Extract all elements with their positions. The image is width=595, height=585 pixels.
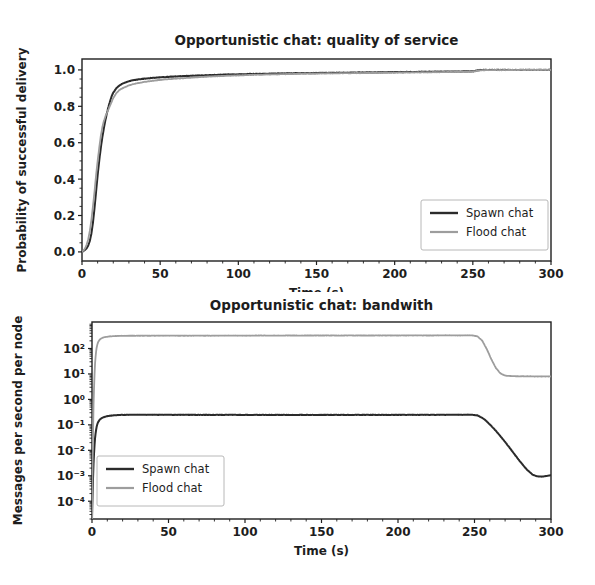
chart-svg-bandwith: Opportunistic chat: bandwith050100150200… <box>0 292 595 585</box>
legend[interactable]: Spawn chatFlood chat <box>97 456 224 506</box>
x-axis-label: Time (s) <box>294 544 349 558</box>
y-tick-label: 10⁻¹ <box>57 418 85 432</box>
y-tick-label: 10⁻⁴ <box>57 495 85 509</box>
x-tick-label: 50 <box>160 525 177 539</box>
x-tick-label: 300 <box>538 525 563 539</box>
y-tick-label: 0.4 <box>54 173 75 187</box>
chart-title: Opportunistic chat: quality of service <box>174 32 458 48</box>
legend-label-flood-chat: Flood chat <box>466 225 526 239</box>
chart-svg-quality-of-service: Opportunistic chat: quality of service05… <box>0 0 595 292</box>
chart-panel-quality-of-service: Opportunistic chat: quality of service05… <box>0 0 595 292</box>
figure-container: Opportunistic chat: quality of service05… <box>0 0 595 585</box>
y-axis-label: Messages per second per node <box>11 316 25 526</box>
x-tick-label: 100 <box>226 267 251 281</box>
y-tick-label: 10⁻² <box>57 444 85 458</box>
y-axis-label: Probability of successful delivery <box>15 47 29 272</box>
x-tick-label: 200 <box>385 525 410 539</box>
legend-label-spawn-chat: Spawn chat <box>142 462 210 476</box>
legend-label-flood-chat: Flood chat <box>142 481 202 495</box>
x-tick-label: 100 <box>232 525 257 539</box>
x-tick-label: 200 <box>382 267 407 281</box>
x-tick-label: 150 <box>309 525 334 539</box>
y-tick-label: 10² <box>63 342 85 356</box>
x-tick-label: 250 <box>462 525 487 539</box>
x-axis: 050100150200250300Time (s) <box>88 519 564 558</box>
y-tick-label: 10¹ <box>63 367 85 381</box>
x-tick-label: 150 <box>304 267 329 281</box>
y-tick-label: 0.8 <box>54 100 75 114</box>
y-tick-label: 0.2 <box>54 209 75 223</box>
x-axis: 050100150200250300Time (s) <box>78 261 564 292</box>
y-tick-label: 10⁰ <box>63 393 85 407</box>
y-axis: 0.00.20.40.60.81.0 <box>54 63 82 259</box>
x-tick-label: 0 <box>78 267 86 281</box>
x-tick-label: 250 <box>460 267 485 281</box>
y-tick-label: 1.0 <box>54 63 75 77</box>
y-tick-label: 0.0 <box>54 245 75 259</box>
x-tick-label: 50 <box>152 267 169 281</box>
y-tick-label: 0.6 <box>54 136 75 150</box>
x-tick-label: 300 <box>538 267 563 281</box>
legend[interactable]: Spawn chatFlood chat <box>421 200 548 250</box>
y-tick-label: 10⁻³ <box>57 469 85 483</box>
chart-title: Opportunistic chat: bandwith <box>210 297 433 313</box>
x-tick-label: 0 <box>88 525 96 539</box>
chart-panel-bandwith: Opportunistic chat: bandwith050100150200… <box>0 292 595 585</box>
y-axis: 10²10¹10⁰10⁻¹10⁻²10⁻³10⁻⁴ <box>57 324 92 519</box>
legend-label-spawn-chat: Spawn chat <box>466 206 534 220</box>
